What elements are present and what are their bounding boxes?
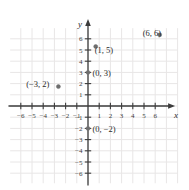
- y-tick-label: 6: [79, 35, 83, 43]
- y-tick-label: 5: [79, 47, 83, 55]
- y-axis-arrowhead: [85, 19, 91, 26]
- y-tick-label: 3: [79, 69, 83, 77]
- axis-lines: [8, 19, 175, 186]
- x-tick-label: −3: [51, 112, 59, 120]
- x-tick-label: −4: [39, 112, 47, 120]
- x-tick-label: −2: [62, 112, 70, 120]
- x-tick-label: 6: [153, 112, 157, 120]
- data-point-label: (1, 5): [95, 45, 114, 55]
- y-tick-label: −5: [75, 159, 83, 167]
- coordinate-plane-svg: −6−5−4−3−2−1123456654321−1−2−3−4−5−6 (−3…: [0, 0, 189, 190]
- coordinate-plane-figure: −6−5−4−3−2−1123456654321−1−2−3−4−5−6 (−3…: [0, 0, 189, 190]
- y-tick-label: −2: [75, 125, 83, 133]
- data-point-marker: [86, 70, 90, 74]
- x-tick-label: −6: [17, 112, 25, 120]
- x-tick-label: 4: [131, 112, 135, 120]
- y-axis-name: y: [77, 19, 82, 29]
- x-tick-label: 5: [142, 112, 146, 120]
- data-point-label: (6, 6): [143, 28, 162, 38]
- y-tick-label: −1: [75, 114, 83, 122]
- y-tick-label: −6: [75, 170, 83, 178]
- data-point-label: (0, −2): [93, 124, 116, 134]
- y-tick-label: −3: [75, 136, 83, 144]
- x-axis-name: x: [173, 110, 178, 120]
- x-tick-label: 3: [120, 112, 124, 120]
- data-point-marker: [86, 126, 90, 130]
- data-point-label: (−3, 2): [26, 79, 49, 89]
- y-tick-label: 4: [79, 58, 83, 66]
- x-tick-label: 2: [109, 112, 113, 120]
- y-tick-label: 1: [79, 91, 83, 99]
- y-tick-label: −4: [75, 147, 83, 155]
- data-point-label: (0, 3): [93, 68, 112, 78]
- y-tick-label: 2: [79, 80, 83, 88]
- x-tick-label: −5: [28, 112, 36, 120]
- x-axis-arrowhead: [168, 103, 175, 109]
- data-point-marker: [56, 85, 60, 89]
- x-tick-label: 1: [97, 112, 101, 120]
